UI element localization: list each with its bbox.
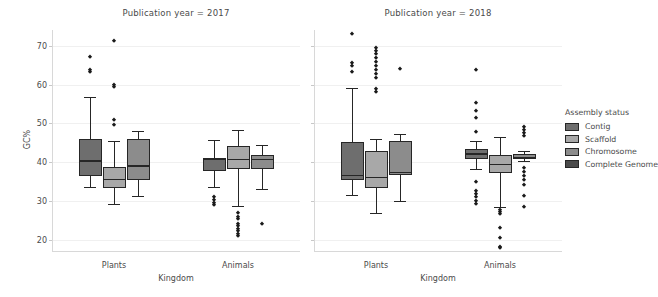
box-body [251,155,274,168]
xtick-label-plants: Plants [364,261,388,270]
ytick-label-40: 40 [37,158,47,167]
outlier-point [522,194,527,199]
x-axis-label: Kingdom [158,274,193,283]
legend-item-label: Scaffold [585,135,616,144]
median-line [513,157,536,158]
legend-swatch-icon [565,135,579,143]
legend-swatch-icon [565,123,579,131]
boxplot-chromosome [314,30,562,252]
chart-figure: Publication year = 2017203040506070Kingd… [0,0,658,297]
legend-item-complete-genome[interactable]: Complete Genome [565,160,658,169]
legend-item-label: Complete Genome [585,160,658,169]
xtick-label-plants: Plants [102,261,126,270]
legend-item-contig[interactable]: Contig [565,122,658,131]
outlier-point [522,205,527,210]
x-axis-label: Kingdom [420,274,455,283]
whisker-cap-upper [518,151,531,152]
y-axis-label: GC% [23,125,32,155]
outlier-point [522,134,527,139]
plot-area: KingdomPlantsAnimals [314,30,562,252]
legend-title: Assembly status [565,108,658,117]
legend-item-chromosome[interactable]: Chromosome [565,147,658,156]
legend-item-label: Contig [585,122,610,131]
boxplot-chromosome [52,30,300,252]
legend-item-label: Chromosome [585,147,637,156]
ytick-label-60: 60 [37,80,47,89]
legend-swatch-icon [565,148,579,156]
ytick-label-20: 20 [37,236,47,245]
whisker-cap-lower [256,189,269,190]
plot-area: 203040506070KingdomPlantsAnimals [52,30,300,252]
whisker-cap-upper [256,145,269,146]
facet-title: Publication year = 2018 [314,8,562,18]
ytick-label-30: 30 [37,197,47,206]
legend-item-scaffold[interactable]: Scaffold [565,135,658,144]
xtick-label-animals: Animals [484,261,516,270]
xtick-label-animals: Animals [222,261,254,270]
legend-swatch-icon [565,160,579,168]
ytick-label-70: 70 [37,41,47,50]
median-line [251,159,274,160]
ytick-label-50: 50 [37,119,47,128]
whisker-cap-lower [518,161,531,162]
facet-panel-2: Publication year = 2018KingdomPlantsAnim… [300,0,572,297]
legend: Assembly statusContigScaffoldChromosomeC… [565,108,658,172]
facet-panel-1: Publication year = 2017203040506070Kingd… [6,0,310,297]
outlier-point [260,222,265,227]
facet-title: Publication year = 2017 [52,8,300,18]
outlier-point [522,182,527,187]
